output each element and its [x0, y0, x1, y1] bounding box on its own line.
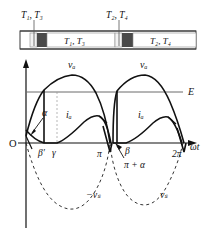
curve-label-ia-second: iₐ [138, 109, 144, 120]
x-axis-label: ωt [190, 142, 200, 152]
gate-callout-label-left: T₁, T₃ [21, 10, 43, 20]
gate-bar-pulse-left [37, 33, 47, 47]
gate-bar-pulse-right [122, 33, 133, 47]
curve-label-ia-first: iₐ [66, 109, 72, 120]
curve-label-vs: vₛ [160, 189, 168, 200]
current-tail-tick-second [168, 117, 176, 124]
tick-label-pi: π [97, 149, 102, 159]
tick-label-2pi: 2π [172, 149, 182, 159]
curve-label-minus-vs: −vₛ [86, 189, 101, 200]
annotation-label-alpha: α [42, 107, 48, 118]
curve-label-va-second: vₐ [140, 59, 147, 70]
origin-label: O [9, 138, 17, 149]
gate-segment-label-left: T₁, T₃ [64, 36, 85, 46]
annotation-pi-plus-alpha [115, 143, 124, 158]
gate-bar-sliver-right [115, 33, 122, 47]
annotation-label-pi-plus-alpha: π + α [124, 160, 146, 170]
gate-pulse-bar: T₁, T₃ T₂, T₄ T₁, T₃ T₂, T₄ [20, 10, 196, 49]
tick-label-gamma: γ [52, 148, 56, 158]
waveform-figure: T₁, T₃ T₂, T₄ T₁, T₃ T₂, T₄ [0, 0, 212, 238]
tick-label-beta: β [124, 146, 130, 156]
curve-va-second [113, 75, 184, 143]
gate-callout-label-right: T₂, T₄ [106, 10, 128, 20]
waveform-plot: O ωt E β′ γ π β 2π vₐ vₐ iₐ iₐ −vₛ vₛ α … [9, 59, 200, 228]
gate-bar-sliver-left [30, 33, 37, 47]
gate-segment-label-right: T₂, T₄ [150, 36, 171, 46]
tick-label-beta-prime: β′ [37, 148, 46, 158]
annotation-alpha [30, 118, 43, 136]
curve-label-va-first: vₐ [68, 59, 75, 70]
level-label-E: E [187, 86, 194, 97]
